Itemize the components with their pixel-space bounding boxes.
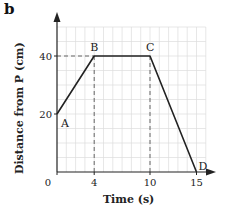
y-axis-arrow-icon	[54, 12, 61, 22]
x-tick-label: 10	[144, 177, 157, 188]
distance-time-chart: 0410152040ABCDTime (s)Distance from P (c…	[0, 0, 228, 217]
x-axis-label: Time (s)	[103, 193, 154, 206]
labels: 0410152040ABCDTime (s)Distance from P (c…	[13, 41, 208, 206]
x-axis-arrow-icon	[206, 169, 216, 176]
y-tick-label: 20	[39, 109, 52, 120]
grid	[57, 27, 206, 172]
point-label-a: A	[60, 117, 70, 130]
point-label-c: C	[146, 41, 154, 54]
x-tick-label: 4	[91, 177, 97, 188]
x-tick-label: 15	[190, 177, 203, 188]
y-tick-label: 40	[39, 51, 52, 62]
point-label-b: B	[90, 41, 98, 54]
point-label-d: D	[199, 160, 208, 173]
y-axis-label: Distance from P (cm)	[13, 42, 26, 174]
axes	[54, 12, 217, 176]
x-tick-label: 0	[45, 177, 51, 188]
